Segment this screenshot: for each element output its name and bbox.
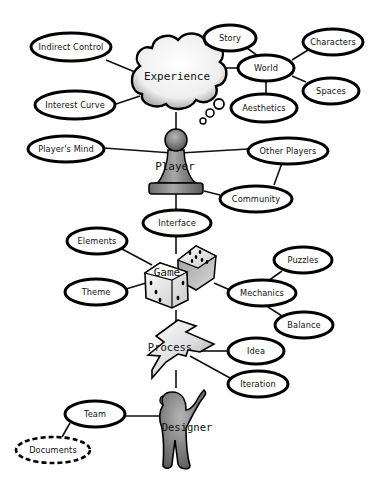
node-theme[interactable]: Theme bbox=[65, 279, 127, 305]
balance-label: Balance bbox=[287, 320, 320, 330]
node-documents[interactable]: Documents bbox=[16, 437, 90, 463]
thought-bubble-medium bbox=[206, 109, 214, 117]
player-label: Player bbox=[155, 160, 195, 173]
node-idea[interactable]: Idea bbox=[228, 338, 284, 364]
node-puzzles[interactable]: Puzzles bbox=[274, 247, 332, 273]
concept-map-diagram: Experience Player bbox=[0, 0, 376, 488]
edge-world-characters bbox=[292, 50, 308, 60]
story-label: Story bbox=[219, 33, 241, 43]
interest-curve-label: Interest Curve bbox=[45, 100, 105, 110]
edge-player-community bbox=[204, 191, 220, 195]
node-elements[interactable]: Elements bbox=[67, 228, 127, 254]
node-story[interactable]: Story bbox=[204, 25, 256, 51]
edge-player-other-players bbox=[180, 149, 248, 153]
node-mechanics[interactable]: Mechanics bbox=[228, 280, 296, 306]
pawn-head bbox=[165, 129, 187, 151]
node-aesthetics[interactable]: Aesthetics bbox=[231, 94, 297, 122]
world-label: World bbox=[254, 63, 278, 73]
indirect-control-label: Indirect Control bbox=[39, 42, 104, 52]
community-label: Community bbox=[232, 194, 280, 204]
process-node[interactable]: Process bbox=[148, 320, 214, 378]
node-balance[interactable]: Balance bbox=[275, 312, 333, 338]
node-interface[interactable]: Interface bbox=[143, 210, 211, 236]
edge-game-theme bbox=[126, 283, 146, 289]
node-iteration[interactable]: Iteration bbox=[228, 371, 288, 397]
iteration-label: Iteration bbox=[240, 379, 276, 389]
puzzles-label: Puzzles bbox=[288, 255, 319, 265]
interface-label: Interface bbox=[158, 218, 196, 228]
node-indirect-control[interactable]: Indirect Control bbox=[31, 33, 111, 61]
node-players-mind[interactable]: Player's Mind bbox=[28, 136, 104, 162]
player-node[interactable]: Player bbox=[149, 129, 203, 194]
designer-label: Designer bbox=[162, 421, 213, 433]
edge-game-elements bbox=[122, 249, 152, 265]
designer-node[interactable]: Designer bbox=[160, 390, 213, 469]
documents-label: Documents bbox=[29, 445, 77, 455]
node-world[interactable]: World bbox=[238, 55, 294, 81]
edge-process-iteration bbox=[190, 356, 230, 378]
node-characters[interactable]: Characters bbox=[303, 29, 363, 55]
node-spaces[interactable]: Spaces bbox=[303, 78, 359, 104]
experience-label: Experience bbox=[144, 70, 210, 83]
node-team[interactable]: Team bbox=[65, 401, 125, 427]
players-mind-label: Player's Mind bbox=[38, 144, 94, 154]
spaces-label: Spaces bbox=[316, 86, 346, 96]
edge-world-spaces bbox=[292, 76, 306, 82]
node-community[interactable]: Community bbox=[220, 186, 292, 212]
edge-mechanics-balance bbox=[268, 307, 282, 316]
game-node[interactable]: Game bbox=[145, 246, 216, 308]
idea-label: Idea bbox=[247, 346, 265, 356]
edge-team-documents bbox=[62, 423, 70, 437]
mechanics-label: Mechanics bbox=[240, 288, 284, 298]
node-other-players[interactable]: Other Players bbox=[248, 138, 328, 164]
node-interest-curve[interactable]: Interest Curve bbox=[35, 91, 115, 119]
thought-bubble-small bbox=[200, 118, 206, 124]
pawn-base bbox=[149, 183, 203, 194]
game-label: Game bbox=[154, 266, 181, 279]
edge-game-mechanics bbox=[214, 283, 230, 290]
aesthetics-label: Aesthetics bbox=[242, 103, 285, 113]
other-players-label: Other Players bbox=[260, 146, 317, 156]
theme-label: Theme bbox=[81, 287, 111, 297]
characters-label: Characters bbox=[310, 37, 356, 47]
elements-label: Elements bbox=[78, 236, 117, 246]
thought-bubble-large bbox=[214, 99, 224, 109]
edge-player-players-mind bbox=[104, 148, 172, 153]
edge-experience-indirect-control bbox=[106, 60, 135, 72]
edge-experience-interest-curve bbox=[116, 96, 140, 104]
process-label: Process bbox=[148, 341, 192, 353]
team-label: Team bbox=[83, 409, 106, 419]
edge-other-players-community bbox=[274, 163, 282, 185]
